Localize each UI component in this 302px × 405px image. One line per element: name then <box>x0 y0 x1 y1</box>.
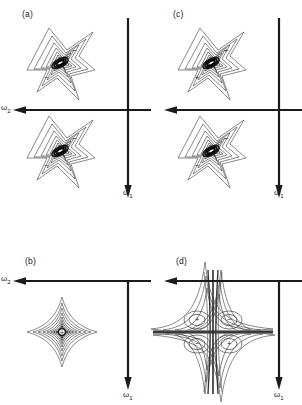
lobe-sign: + <box>195 74 199 81</box>
panel-a-peak-lower: − − + <box>27 116 95 188</box>
panel-a: (a) <box>0 0 151 200</box>
lobe-sign: − <box>73 47 77 54</box>
figure-canvas: (a) <box>0 0 302 405</box>
lobe-sign: − <box>227 316 231 323</box>
panel-c-peak-lower: − − + <box>178 116 246 188</box>
panel-c-axes <box>164 18 302 198</box>
center-sign: − <box>212 61 216 68</box>
panel-c-omega1-label: ω1 <box>274 188 284 199</box>
panel-b-omega2-label: ω2 <box>1 274 11 285</box>
panel-a-label: (a) <box>22 9 33 19</box>
panel-d-contours: + − − + <box>151 262 275 402</box>
lobe-sign: − <box>195 162 199 169</box>
lobe-sign: − <box>195 340 199 347</box>
center-sign: + <box>60 329 64 336</box>
lobe-sign: + <box>195 316 199 323</box>
panel-c: (c) <box>151 0 302 200</box>
center-sign: + <box>61 150 65 157</box>
panel-a-peak-upper: − − + <box>27 28 95 100</box>
panel-a-plot: − − + − − + <box>0 0 151 200</box>
panel-d-plot: + − − + <box>151 200 302 405</box>
center-sign: + <box>212 150 216 157</box>
lobe-sign: − <box>73 135 77 142</box>
lobe-sign: + <box>224 47 228 54</box>
panel-c-label: (c) <box>173 9 184 19</box>
lobe-sign: − <box>44 74 48 81</box>
center-sign: + <box>61 62 65 69</box>
lobe-sign: + <box>227 340 231 347</box>
lobe-sign: − <box>224 135 228 142</box>
panel-b-plot: + <box>0 200 151 405</box>
panel-d-label: (d) <box>176 256 187 266</box>
panel-a-omega2-label: ω2 <box>1 103 11 114</box>
panel-b-axes <box>13 277 151 390</box>
panel-a-omega1-label: ω1 <box>123 188 133 199</box>
lobe-sign: − <box>44 162 48 169</box>
panel-b-omega1-label: ω1 <box>123 390 133 401</box>
panel-b-label: (b) <box>25 256 36 266</box>
panel-a-axes <box>13 18 151 198</box>
panel-c-peak-upper: + + − <box>178 28 246 100</box>
panel-d: (d) <box>151 200 302 405</box>
panel-b-peak-center: + <box>27 297 97 367</box>
panel-c-plot: + + − − − + <box>151 0 302 200</box>
panel-b: (b) + <box>0 200 151 405</box>
panel-d-omega1-label: ω1 <box>274 390 284 401</box>
